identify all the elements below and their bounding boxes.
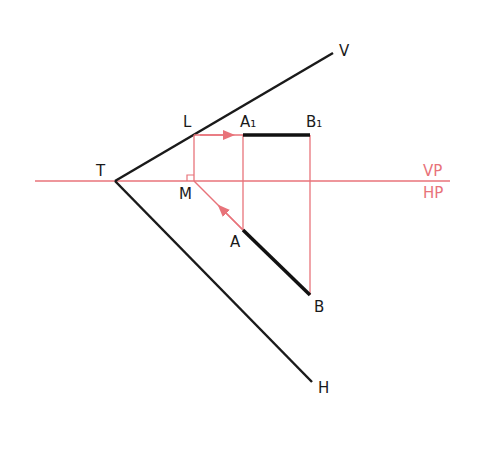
- label-L: L: [183, 113, 192, 131]
- arrow-A-M: [222, 209, 243, 230]
- label-H: H: [318, 379, 329, 397]
- right-angle-marker: [187, 175, 194, 181]
- orthographic-projection-diagram: T V H L M A₁ B₁ A B VP HP: [0, 0, 484, 461]
- label-M: M: [179, 185, 192, 203]
- label-VP: VP: [423, 162, 442, 180]
- label-B: B: [314, 298, 324, 316]
- horizontal-trace-line: [115, 181, 312, 382]
- label-T: T: [95, 162, 106, 180]
- label-B1: B₁: [306, 113, 322, 131]
- top-view-A-B: [243, 230, 310, 295]
- label-A: A: [230, 233, 241, 251]
- vertical-trace-line: [115, 53, 333, 181]
- label-A1: A₁: [240, 113, 256, 131]
- label-HP: HP: [423, 184, 443, 202]
- label-V: V: [339, 42, 350, 60]
